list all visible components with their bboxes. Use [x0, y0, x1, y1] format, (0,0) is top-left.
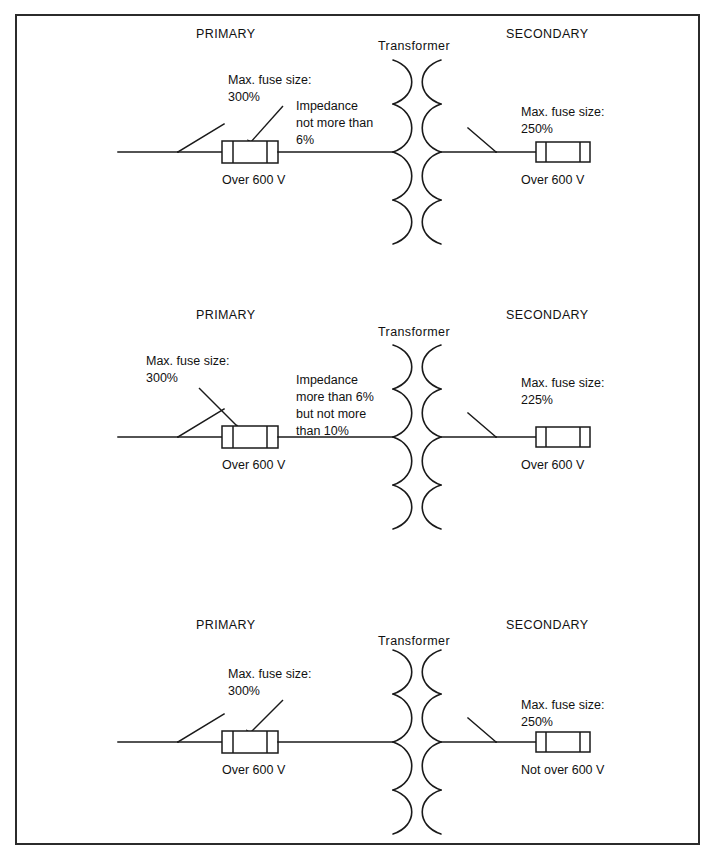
block-1-primary-fuse-caption-line1: Max. fuse size: [228, 73, 311, 87]
block-2-primary-fuse-caption-line1: Max. fuse size: [146, 354, 229, 368]
block-3-primary-fuse-caption-line1: Max. fuse size: [228, 667, 311, 681]
figure-root: PRIMARY Transformer SECONDARY Max. fuse … [0, 0, 719, 858]
block-3-primary-label: PRIMARY [196, 618, 256, 632]
block-3-secondary-fuse-caption-line1: Max. fuse size: [521, 698, 604, 712]
block-2-impedance-line3: but not more [296, 407, 366, 421]
block-2-primary-fuse-caption-line2: 300% [146, 371, 178, 385]
block-1-impedance-line3: 6% [296, 133, 314, 147]
block-2-secondary-label: SECONDARY [506, 308, 589, 322]
block-1-secondary-fuse-caption-line1: Max. fuse size: [521, 105, 604, 119]
block-2-impedance-line1: Impedance [296, 373, 358, 387]
block-1-primary-label: PRIMARY [196, 27, 256, 41]
block-1-primary-voltage: Over 600 V [222, 173, 286, 187]
block-3-secondary-label: SECONDARY [506, 618, 589, 632]
block-2-secondary-fuse-caption-line1: Max. fuse size: [521, 376, 604, 390]
block-1-impedance-line1: Impedance [296, 99, 358, 113]
block-1-secondary-fuse-caption-line2: 250% [521, 122, 553, 136]
figure-border [15, 14, 700, 845]
block-1-transformer-label: Transformer [378, 39, 450, 53]
block-2-transformer-label: Transformer [378, 325, 450, 339]
block-2-secondary-fuse-caption-line2: 225% [521, 393, 553, 407]
block-2-primary-label: PRIMARY [196, 308, 256, 322]
block-2-secondary-voltage: Over 600 V [521, 458, 585, 472]
block-3-secondary-fuse-caption-line2: 250% [521, 715, 553, 729]
block-3-transformer-label: Transformer [378, 634, 450, 648]
block-2-impedance-line2: more than 6% [296, 390, 374, 404]
block-3-primary-voltage: Over 600 V [222, 763, 286, 777]
block-1-impedance-line2: not more than [296, 116, 373, 130]
block-3-primary-fuse-caption-line2: 300% [228, 684, 260, 698]
block-2-impedance-line4: than 10% [296, 424, 349, 438]
block-2-primary-voltage: Over 600 V [222, 458, 286, 472]
block-1-secondary-label: SECONDARY [506, 27, 589, 41]
block-3-secondary-voltage: Not over 600 V [521, 763, 605, 777]
block-1-secondary-voltage: Over 600 V [521, 173, 585, 187]
block-1-primary-fuse-caption-line2: 300% [228, 90, 260, 104]
